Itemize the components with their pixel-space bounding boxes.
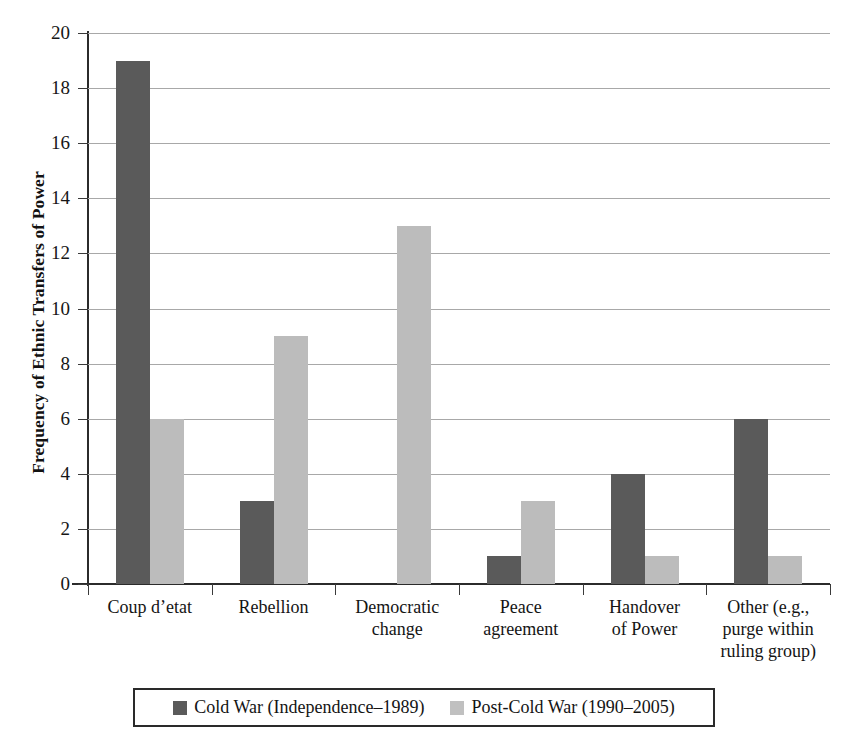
y-axis-tick-mark — [78, 364, 88, 365]
bar — [274, 336, 308, 584]
gridline — [88, 198, 830, 199]
bar — [240, 501, 274, 584]
x-axis-category-label: Democraticchange — [335, 597, 459, 641]
x-axis-category-label-line: Rebellion — [212, 597, 336, 619]
gridline — [88, 33, 830, 34]
bar-group — [487, 33, 555, 584]
bar — [645, 556, 679, 584]
bar — [116, 61, 150, 584]
legend-label: Cold War (Independence–1989) — [194, 697, 424, 718]
y-axis-tick-label: 14 — [22, 188, 70, 207]
y-axis-tick-label: 12 — [22, 243, 70, 262]
y-axis-tick-mark — [78, 88, 88, 89]
x-axis-category-label-line: Democratic — [335, 597, 459, 619]
bar — [397, 226, 431, 584]
y-axis-tick-label: 18 — [22, 78, 70, 97]
x-axis-category-label-line: ruling group) — [706, 641, 830, 663]
y-axis-tick-label: 20 — [22, 23, 70, 42]
bar — [768, 556, 802, 584]
x-axis-category-label: Handoverof Power — [583, 597, 707, 641]
y-axis-tick-mark — [78, 309, 88, 310]
y-axis-tick-label: 2 — [22, 519, 70, 538]
gridline — [88, 88, 830, 89]
bar-group — [116, 33, 184, 584]
x-axis-tick-mark — [583, 584, 584, 595]
x-axis-category-label: Peaceagreement — [459, 597, 583, 641]
bar-group — [363, 33, 431, 584]
legend-item: Cold War (Independence–1989) — [173, 697, 424, 718]
bar — [611, 474, 645, 584]
y-axis-tick-label: 8 — [22, 354, 70, 373]
legend-item: Post-Cold War (1990–2005) — [450, 697, 674, 718]
y-axis-tick-mark — [78, 419, 88, 420]
plot-area — [88, 33, 830, 584]
x-axis-tick-mark — [212, 584, 213, 595]
x-axis-category-label-line: agreement — [459, 619, 583, 641]
gridline — [88, 253, 830, 254]
x-axis-category-label: Other (e.g.,purge withinruling group) — [706, 597, 830, 663]
gridline — [88, 309, 830, 310]
gridline — [88, 529, 830, 530]
y-axis-tick-label: 10 — [22, 299, 70, 318]
x-axis-tick-mark — [706, 584, 707, 595]
y-axis-tick-mark — [78, 33, 88, 34]
y-axis-tick-label: 16 — [22, 133, 70, 152]
x-axis-category-label-line: of Power — [583, 619, 707, 641]
bar — [487, 556, 521, 584]
y-axis-tick-label: 4 — [22, 464, 70, 483]
y-axis-tick-label: 6 — [22, 409, 70, 428]
bar-group — [240, 33, 308, 584]
y-axis-tick-label: 0 — [22, 574, 70, 593]
y-axis-tick-mark — [78, 474, 88, 475]
bar — [150, 419, 184, 584]
gridline — [88, 364, 830, 365]
x-axis-tick-mark — [830, 584, 831, 595]
x-axis-category-label: Rebellion — [212, 597, 336, 619]
gridline — [88, 143, 830, 144]
bar — [521, 501, 555, 584]
y-axis-tick-mark — [78, 584, 88, 585]
x-axis-category-label-line: Handover — [583, 597, 707, 619]
chart-legend: Cold War (Independence–1989)Post-Cold Wa… — [133, 688, 715, 727]
bar-chart-figure: Frequency of Ethnic Transfers of Power 2… — [0, 0, 845, 739]
y-axis-tick-mark — [78, 143, 88, 144]
x-axis-tick-mark — [88, 584, 89, 595]
legend-swatch-icon — [173, 701, 187, 715]
bar — [734, 419, 768, 584]
x-axis-category-label-line: change — [335, 619, 459, 641]
gridline — [88, 419, 830, 420]
x-axis-category-label-line: purge within — [706, 619, 830, 641]
bar-group — [734, 33, 802, 584]
x-axis-category-label-line: Peace — [459, 597, 583, 619]
x-axis-category-label-line: Other (e.g., — [706, 597, 830, 619]
gridline — [88, 474, 830, 475]
x-axis-tick-mark — [459, 584, 460, 595]
x-axis-category-label: Coup d’etat — [88, 597, 212, 619]
x-axis-category-label-line: Coup d’etat — [88, 597, 212, 619]
y-axis-tick-mark — [78, 198, 88, 199]
legend-label: Post-Cold War (1990–2005) — [471, 697, 674, 718]
y-axis-tick-mark — [78, 529, 88, 530]
y-axis-tick-labels: 20181614121086420 — [22, 0, 70, 739]
x-axis-tick-mark — [335, 584, 336, 595]
bar-group — [611, 33, 679, 584]
y-axis-tick-mark — [78, 253, 88, 254]
legend-swatch-icon — [450, 701, 464, 715]
